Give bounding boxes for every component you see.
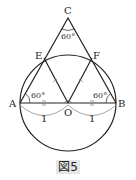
label-length-ao: 1	[41, 113, 47, 124]
label-angle-c: 60°	[61, 32, 75, 41]
label-point-e: E	[35, 50, 42, 61]
segment-eo	[44, 58, 68, 103]
label-point-b: B	[118, 98, 125, 109]
label-point-c: C	[64, 5, 72, 16]
figure-caption: 図5	[0, 156, 136, 175]
segment-fo	[68, 58, 92, 103]
angle-arc-c	[62, 29, 74, 31]
label-point-a: A	[8, 98, 17, 109]
label-point-o: O	[64, 107, 72, 118]
label-angle-a: 60°	[31, 91, 45, 100]
caption-text: 図5	[56, 160, 80, 174]
angle-arc-a	[26, 94, 30, 103]
label-angle-b: 60°	[93, 91, 107, 100]
geometry-figure: C E F A B O 60° 60° 60° 1 1	[0, 0, 136, 180]
label-point-f: F	[93, 50, 100, 61]
label-length-ob: 1	[89, 113, 95, 124]
